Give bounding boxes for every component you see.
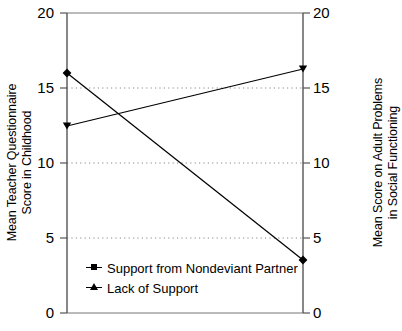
filled-diamond-marker-icon bbox=[86, 261, 104, 275]
right-tick-label-15: 15 bbox=[313, 80, 347, 95]
right-tick-label-5: 5 bbox=[313, 230, 347, 245]
left-tick-label-0: 0 bbox=[20, 305, 54, 320]
y-axis-right-title-line2: in Social Functioning bbox=[385, 58, 400, 268]
y-axis-right-title: Mean Score on Adult Problems in Social F… bbox=[371, 58, 400, 268]
left-axis-ticks bbox=[60, 13, 67, 313]
gridlines bbox=[67, 88, 303, 238]
right-tick-label-0: 0 bbox=[313, 305, 347, 320]
left-tick-label-20: 20 bbox=[20, 5, 54, 20]
series-lack-of-support bbox=[63, 65, 307, 129]
filled-triangle-marker-icon bbox=[86, 281, 104, 295]
legend-item-label: Support from Nondeviant Partner bbox=[104, 261, 298, 276]
y-axis-left-title: Mean Teacher Questionnaire Score in Chil… bbox=[5, 58, 34, 268]
legend-item-lack-of-support: Lack of Support bbox=[86, 278, 316, 298]
data-point-marker bbox=[299, 65, 307, 72]
y-axis-left-title-line2: Score in Childhood bbox=[19, 58, 34, 268]
y-axis-left-title-line1: Mean Teacher Questionnaire bbox=[5, 58, 20, 268]
chart-figure: 20 15 10 5 0 20 15 10 5 0 Mean Teacher Q… bbox=[0, 0, 402, 331]
legend-item-support-from-nondeviant-partner: Support from Nondeviant Partner bbox=[86, 258, 316, 278]
legend-item-label: Lack of Support bbox=[104, 281, 198, 296]
y-axis-right-title-line1: Mean Score on Adult Problems bbox=[371, 58, 386, 268]
chart-legend: Support from Nondeviant Partner Lack of … bbox=[86, 258, 316, 298]
right-tick-label-10: 10 bbox=[313, 155, 347, 170]
right-tick-label-20: 20 bbox=[313, 5, 347, 20]
